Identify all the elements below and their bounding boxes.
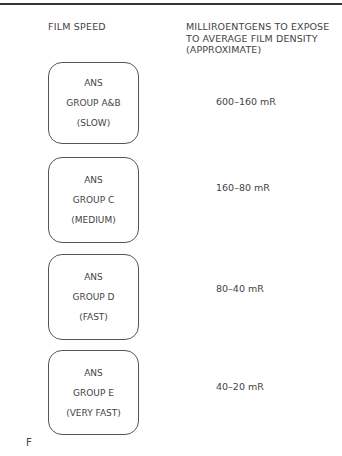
box-line: GROUP E [73, 383, 114, 403]
box-line: ANS [84, 170, 103, 190]
exposure-value: 160–80 mR [216, 182, 270, 193]
film-speed-box-c: ANS GROUP C (MEDIUM) [48, 157, 139, 243]
header-line: MILLIROENTGENS TO EXPOSE [186, 21, 329, 33]
film-speed-box-d: ANS GROUP D (FAST) [48, 254, 139, 340]
box-line: (MEDIUM) [71, 210, 115, 230]
figure-label: F [26, 437, 32, 448]
box-line: (VERY FAST) [66, 403, 121, 423]
film-speed-header: FILM SPEED [48, 21, 106, 32]
box-line: GROUP D [72, 287, 114, 307]
exposure-value: 40–20 mR [216, 381, 264, 392]
top-rule [0, 3, 342, 5]
header-line: (APPROXIMATE) [186, 44, 329, 56]
exposure-value: 600–160 mR [216, 96, 276, 107]
box-line: ANS [84, 267, 103, 287]
box-line: ANS [84, 73, 103, 93]
film-speed-box-e: ANS GROUP E (VERY FAST) [48, 350, 139, 435]
box-line: ANS [84, 363, 103, 383]
box-line: (FAST) [79, 307, 108, 327]
milliroentgens-header: MILLIROENTGENS TO EXPOSE TO AVERAGE FILM… [186, 21, 329, 56]
box-line: (SLOW) [77, 113, 110, 133]
header-line: TO AVERAGE FILM DENSITY [186, 33, 329, 45]
exposure-value: 80–40 mR [216, 283, 264, 294]
box-line: GROUP A&B [66, 93, 121, 113]
film-speed-box-ab: ANS GROUP A&B (SLOW) [48, 62, 139, 144]
box-line: GROUP C [73, 190, 114, 210]
